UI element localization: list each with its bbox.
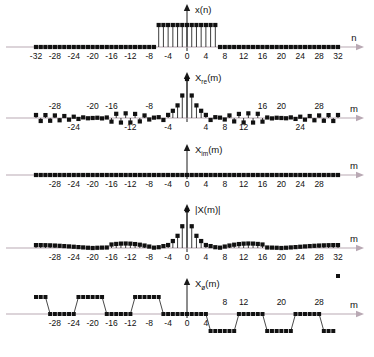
data-point-marker — [171, 109, 175, 113]
tick-label: -16 — [105, 51, 118, 61]
data-point-marker — [53, 45, 57, 49]
data-point-marker — [109, 45, 113, 49]
data-point-marker — [242, 173, 246, 177]
data-point-marker — [62, 45, 66, 49]
data-point-marker — [39, 243, 43, 247]
data-point-marker — [43, 45, 47, 49]
panel-x-im-m: Xim(m)m-28-24-20-16-12-8-40481216202428 — [0, 142, 374, 204]
data-point-marker — [308, 45, 312, 49]
data-point-marker — [86, 116, 90, 120]
data-point-marker — [218, 45, 222, 49]
tick-label: -4 — [164, 122, 172, 132]
tick-label: -28 — [49, 51, 62, 61]
data-point-marker — [204, 113, 208, 117]
data-point-marker — [284, 246, 288, 250]
data-point-marker — [194, 173, 198, 177]
data-point-marker — [298, 45, 302, 49]
panel-x-phase-m: Xø(m)m-28-24-20-16-12-8-4048122028 — [0, 274, 374, 357]
data-point-marker — [175, 103, 179, 107]
data-point-marker — [331, 45, 335, 49]
data-point-marker — [336, 243, 340, 247]
data-point-marker — [72, 173, 76, 177]
data-point-marker — [175, 234, 179, 238]
tick-label: 16 — [258, 101, 268, 111]
data-point-marker — [279, 246, 283, 250]
data-point-marker — [62, 244, 66, 248]
data-point-marker — [67, 173, 71, 177]
tick-label: -12 — [124, 51, 137, 61]
tick-label: 8 — [222, 252, 227, 262]
phase-transition-line — [74, 297, 79, 314]
data-point-marker — [86, 45, 90, 49]
data-point-marker — [199, 239, 203, 243]
dft-figure: x(n)n-32-28-24-20-16-12-8-40481216202428… — [0, 0, 374, 357]
data-point-marker — [265, 173, 269, 177]
data-point-marker — [100, 45, 104, 49]
data-point-marker — [223, 244, 227, 248]
data-point-marker — [312, 45, 316, 49]
tick-label: 8 — [222, 297, 227, 307]
data-point-marker — [161, 244, 165, 248]
data-point-marker — [289, 45, 293, 49]
signal-label: Xø(m) — [195, 278, 220, 291]
data-point-marker — [265, 245, 269, 249]
tick-label: 24 — [296, 122, 306, 132]
data-point-marker — [227, 329, 231, 333]
data-point-marker — [53, 243, 57, 247]
tick-label: -8 — [145, 252, 153, 262]
data-point-marker — [260, 45, 264, 49]
tick-label: 4 — [204, 179, 209, 189]
phase-transition-line — [319, 314, 324, 331]
data-point-marker — [166, 173, 170, 177]
tick-label: -20 — [86, 318, 99, 328]
data-point-marker — [199, 173, 203, 177]
data-point-marker — [275, 329, 279, 333]
data-point-marker — [327, 329, 331, 333]
data-point-marker — [246, 241, 250, 245]
data-point-marker — [232, 45, 236, 49]
data-point-marker — [331, 329, 335, 333]
data-point-marker — [39, 173, 43, 177]
tick-label: -12 — [124, 122, 137, 132]
data-point-marker — [171, 312, 175, 316]
data-point-marker — [275, 45, 279, 49]
data-point-marker — [331, 243, 335, 247]
axis-name-label: n — [351, 32, 356, 43]
data-point-marker — [246, 45, 250, 49]
tick-label: 28 — [314, 252, 324, 262]
tick-label: 12 — [239, 179, 249, 189]
data-point-marker — [166, 243, 170, 247]
panel-x-re-m: Xre(m)m-28-20-16-8162028-24-12-4481224 — [0, 70, 374, 144]
data-point-marker — [317, 113, 321, 117]
data-point-marker — [34, 243, 38, 247]
data-point-marker — [105, 45, 109, 49]
data-point-marker — [218, 173, 222, 177]
data-point-marker — [152, 246, 156, 250]
data-point-marker — [256, 312, 260, 316]
panel-x-phase-m-svg: Xø(m)m-28-24-20-16-12-8-4048122028 — [0, 274, 374, 357]
data-point-marker — [251, 241, 255, 245]
tick-label: -24 — [68, 51, 81, 61]
data-point-marker — [95, 173, 99, 177]
data-point-marker — [100, 116, 104, 120]
data-point-marker — [76, 173, 80, 177]
tick-label: 20 — [277, 101, 287, 111]
data-point-marker — [157, 173, 161, 177]
data-point-marker — [284, 116, 288, 120]
data-point-marker — [223, 173, 227, 177]
data-point-marker — [284, 329, 288, 333]
data-point-marker — [284, 173, 288, 177]
data-point-marker — [114, 173, 118, 177]
data-point-marker — [76, 245, 80, 249]
data-point-marker — [48, 119, 52, 123]
data-point-marker — [308, 244, 312, 248]
data-point-marker — [326, 113, 330, 117]
data-point-marker — [251, 120, 255, 124]
data-point-marker — [95, 45, 99, 49]
panel-x-re-m-svg: Xre(m)m-28-20-16-8162028-24-12-4481224 — [0, 70, 374, 144]
axis-name-label: m — [350, 103, 358, 114]
data-point-marker — [124, 45, 128, 49]
data-point-marker — [114, 242, 118, 246]
data-point-marker — [303, 173, 307, 177]
data-point-marker — [260, 173, 264, 177]
